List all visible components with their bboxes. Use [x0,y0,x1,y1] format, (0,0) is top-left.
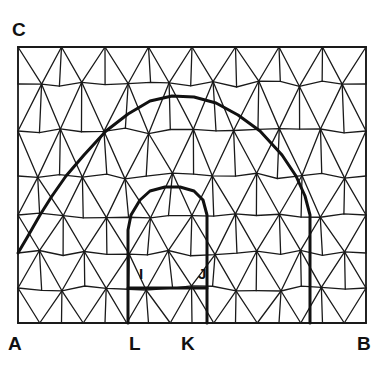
label-corner-a: A [8,334,22,353]
label-point-l: L [129,334,141,353]
label-corner-c: C [12,20,26,39]
label-point-j: J [198,266,206,281]
mesh-figure [0,0,383,365]
label-corner-b: B [357,334,371,353]
label-point-k: K [181,334,195,353]
mesh-diagram-page: C A L K B I J [0,0,383,365]
label-point-i: I [139,266,143,281]
